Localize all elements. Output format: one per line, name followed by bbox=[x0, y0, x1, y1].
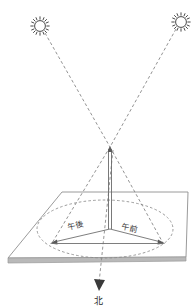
arrow-down-icon bbox=[94, 279, 105, 291]
sun-icon bbox=[176, 17, 187, 28]
sundial-diagram: 午後 午前 北 bbox=[0, 0, 196, 308]
north-label: 北 bbox=[94, 296, 103, 306]
sun-icon bbox=[35, 21, 46, 32]
sun-ray-right-to-apex bbox=[110, 29, 176, 147]
sun-right-group bbox=[171, 12, 190, 31]
ground-plane-group bbox=[8, 192, 188, 263]
sun-ray-left-to-apex bbox=[45, 33, 110, 147]
diagram-canvas: 午後 午前 北 bbox=[0, 0, 196, 308]
sun-left-group bbox=[30, 16, 49, 35]
ground-plane bbox=[8, 192, 188, 258]
